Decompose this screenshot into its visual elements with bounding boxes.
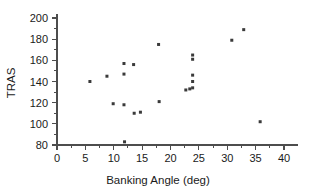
x-axis-major-ticks (57, 145, 284, 150)
data-point (158, 100, 161, 103)
data-point (157, 43, 160, 46)
data-point (123, 140, 126, 143)
y-tick-label-180: 180 (30, 33, 48, 45)
y-tick-label-120: 120 (30, 97, 48, 109)
x-axis-title: Banking Angle (deg) (106, 174, 210, 186)
data-point (191, 58, 194, 61)
y-axis-major-ticks (52, 18, 57, 145)
x-tick-label-0: 0 (54, 152, 60, 164)
y-tick-label-100: 100 (30, 118, 48, 130)
x-tick-label-20: 20 (164, 152, 176, 164)
axis-lines (57, 14, 298, 145)
y-tick-label-160: 160 (30, 54, 48, 66)
data-point (259, 120, 262, 123)
data-point (133, 112, 136, 115)
data-point (191, 86, 194, 89)
data-point (184, 88, 187, 91)
data-point (132, 63, 135, 66)
x-tick-label-30: 30 (221, 152, 233, 164)
x-tick-label-5: 5 (82, 152, 88, 164)
y-tick-label-80: 80 (36, 139, 48, 151)
y-axis-tick-labels: 80100120140160180200 (30, 12, 48, 151)
x-tick-label-10: 10 (108, 152, 120, 164)
data-point (122, 73, 125, 76)
data-point (139, 111, 142, 114)
y-tick-label-200: 200 (30, 12, 48, 24)
data-point (188, 87, 191, 90)
chart-canvas: 0510152025303540 80100120140160180200 Ba… (0, 0, 316, 188)
data-point (122, 103, 125, 106)
scatter-plot-figure: 0510152025303540 80100120140160180200 Ba… (0, 0, 316, 188)
data-point (122, 62, 125, 65)
data-point (191, 80, 194, 83)
data-point (112, 102, 115, 105)
y-tick-label-140: 140 (30, 76, 48, 88)
x-axis-tick-labels: 0510152025303540 (54, 152, 290, 164)
x-tick-label-40: 40 (278, 152, 290, 164)
data-point (105, 75, 108, 78)
data-point-series (88, 28, 261, 143)
x-tick-label-35: 35 (250, 152, 262, 164)
x-tick-label-25: 25 (193, 152, 205, 164)
data-point (191, 54, 194, 57)
data-point (191, 74, 194, 77)
y-axis-title: TRAS (5, 67, 17, 98)
data-point (88, 80, 91, 83)
data-point (230, 39, 233, 42)
data-point (242, 28, 245, 31)
x-tick-label-15: 15 (136, 152, 148, 164)
